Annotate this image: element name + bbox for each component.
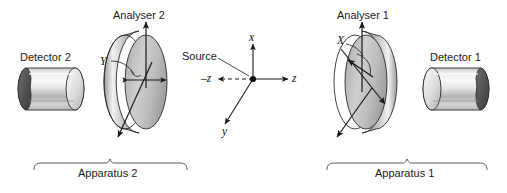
axis-y-label: y bbox=[222, 126, 227, 138]
apparatus-1-label: Apparatus 1 bbox=[375, 168, 434, 179]
analyser-2-label: Analyser 2 bbox=[113, 10, 165, 21]
analyser-2-disc bbox=[104, 22, 167, 137]
source-origin-dot bbox=[250, 76, 256, 82]
epr-apparatus-figure: Detector 2 Analyser 2 Y Source x z –z y … bbox=[0, 0, 507, 193]
source-leader-line bbox=[218, 58, 249, 76]
detector-1-cylinder bbox=[423, 68, 489, 110]
figure-canvas bbox=[0, 0, 507, 193]
apparatus-2-label: Apparatus 2 bbox=[78, 168, 137, 179]
axis-y-arrow bbox=[225, 79, 253, 124]
analyser-2-orientation-label: Y bbox=[100, 56, 106, 68]
axis-x-label: x bbox=[249, 32, 254, 44]
detector-1-label: Detector 1 bbox=[430, 52, 481, 63]
analyser-1-orientation-label: X bbox=[337, 35, 344, 47]
analyser-1-label: Analyser 1 bbox=[337, 10, 389, 21]
analyser-1-front-face bbox=[345, 35, 387, 129]
source-axes bbox=[218, 44, 288, 124]
axis-z-positive-label: z bbox=[292, 73, 296, 85]
axis-z-negative-label: –z bbox=[201, 73, 211, 85]
detector-2-label: Detector 2 bbox=[20, 52, 71, 63]
source-label: Source bbox=[182, 51, 217, 62]
detector-2-cylinder bbox=[18, 68, 84, 110]
